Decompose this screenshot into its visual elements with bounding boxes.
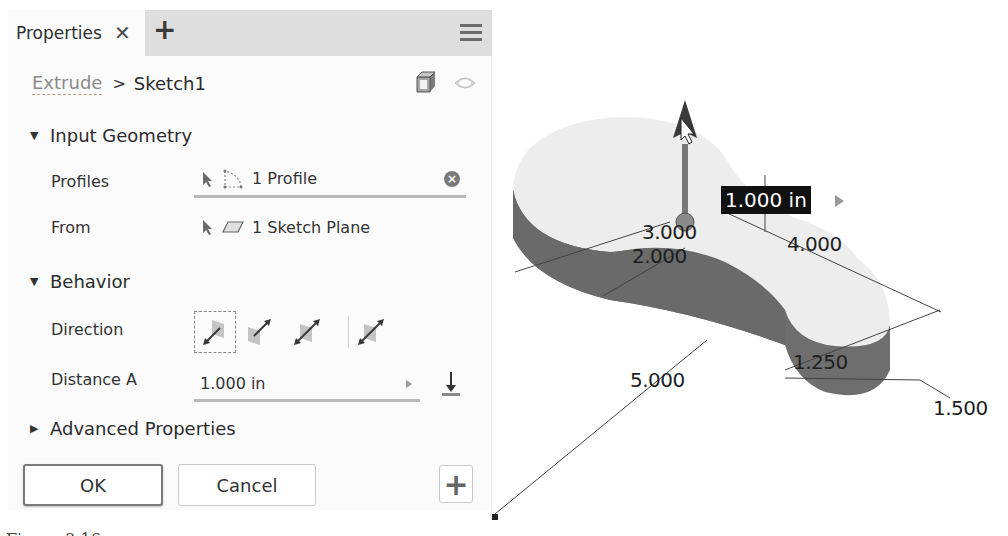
hamburger-menu-icon[interactable] [460, 24, 482, 42]
eye-icon[interactable] [454, 76, 476, 90]
badge-expand-arrow-icon[interactable] [835, 195, 844, 207]
clear-selection-icon[interactable]: × [444, 171, 460, 187]
distance-input-badge[interactable]: 1.000 in [721, 186, 811, 214]
direction-symmetric-button[interactable] [286, 311, 328, 353]
tab-properties[interactable]: Properties ✕ [8, 10, 145, 56]
distance-a-label: Distance A [51, 370, 137, 389]
from-value: 1 Sketch Plane [252, 218, 370, 237]
caret-down-icon: ▼ [30, 129, 40, 142]
direction-symmetric-icon [292, 317, 322, 347]
select-cursor-icon [202, 171, 214, 187]
direction-label: Direction [51, 320, 123, 339]
section-behavior[interactable]: ▼ Behavior [8, 262, 492, 300]
tab-strip: + [145, 10, 492, 56]
breadcrumb-current: Sketch1 [134, 73, 206, 94]
close-icon[interactable]: ✕ [114, 23, 131, 43]
distance-a-input[interactable]: 1.000 in [194, 368, 420, 402]
dimension-label: 1.250 [793, 350, 848, 374]
from-selection-field[interactable]: 1 Sketch Plane [194, 209, 466, 245]
section-title: Advanced Properties [50, 418, 236, 439]
figure-caption: Figure 3-16 [6, 530, 101, 536]
breadcrumb: Extrude > Sketch1 [32, 72, 206, 95]
dimension-label: 1.500 [933, 396, 988, 420]
flip-direction-icon[interactable] [440, 370, 462, 398]
caret-down-icon: ▼ [30, 275, 40, 288]
model-viewport[interactable]: 1.000 in 3.000 2.000 4.000 5.000 1.250 1… [495, 0, 1008, 536]
select-cursor-icon [202, 219, 214, 235]
distance-a-value: 1.000 in [200, 374, 265, 393]
tab-title: Properties [16, 23, 102, 43]
profiles-label: Profiles [51, 172, 109, 191]
ok-button[interactable]: OK [23, 464, 163, 506]
dimension-label: 2.000 [632, 244, 687, 268]
extruded-part-model [495, 0, 1008, 536]
section-title: Behavior [50, 271, 130, 292]
distance-expand-arrow-icon[interactable] [406, 380, 412, 388]
cancel-button[interactable]: Cancel [178, 464, 316, 506]
direction-flipped-icon [244, 317, 274, 347]
breadcrumb-extrude-link[interactable]: Extrude [32, 72, 102, 95]
dimension-label: 5.000 [630, 368, 685, 392]
from-label: From [51, 218, 91, 237]
caret-right-icon: ▶ [30, 422, 40, 435]
breadcrumb-separator: > [112, 74, 125, 93]
apply-add-button[interactable]: + [439, 465, 473, 503]
direction-asymmetric-icon [356, 317, 386, 347]
direction-default-icon [200, 317, 230, 347]
dimension-label: 3.000 [642, 220, 697, 244]
direction-flipped-button[interactable] [238, 311, 280, 353]
profiles-selection-field[interactable]: 1 Profile × [194, 162, 466, 198]
section-input-geometry[interactable]: ▼ Input Geometry [8, 116, 492, 154]
anchor-point [492, 514, 498, 520]
add-tab-button[interactable]: + [153, 16, 176, 44]
profiles-value: 1 Profile [252, 169, 317, 188]
tab-bar: Properties ✕ + [8, 10, 492, 56]
profile-icon [222, 169, 244, 189]
properties-panel: Properties ✕ + Extrude > Sketch1 ▼ Input… [8, 10, 492, 510]
direction-one-side-button[interactable] [194, 311, 236, 353]
direction-asymmetric-button[interactable] [350, 311, 392, 353]
direction-separator [348, 316, 349, 348]
body-icon[interactable] [412, 70, 438, 96]
section-advanced-properties[interactable]: ▶ Advanced Properties [8, 409, 492, 447]
plane-icon [222, 220, 244, 234]
dimension-label: 4.000 [787, 232, 842, 256]
section-title: Input Geometry [50, 125, 192, 146]
